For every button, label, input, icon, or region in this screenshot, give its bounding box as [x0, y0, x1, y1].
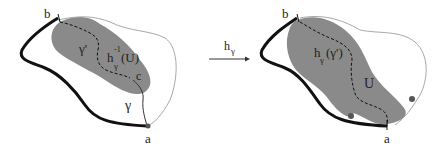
label-c: c — [136, 69, 141, 83]
arrow-label-sub: γ — [230, 46, 235, 56]
boundary-dot-lower — [348, 113, 354, 119]
point-a-dot — [146, 124, 151, 129]
diagram-canvas: b a c γ γ' h -1 γ (U) h γ b a h γ ( — [0, 0, 446, 150]
arrow-label-h: h — [224, 39, 230, 53]
label-b: b — [44, 6, 51, 21]
label-a: a — [384, 131, 390, 146]
map-arrow: h γ — [209, 39, 250, 62]
label-preimage-sub: γ — [113, 61, 118, 71]
boundary-dot-right — [409, 96, 415, 102]
label-image-arg: (γ') — [326, 45, 343, 60]
label-preimage-h: h — [107, 50, 114, 65]
label-image-sub: γ — [319, 55, 324, 65]
right-panel: b a h γ (γ') U — [261, 6, 426, 146]
label-a: a — [145, 131, 151, 146]
label-gamma: γ — [124, 98, 131, 113]
left-panel: b a c γ γ' h -1 γ (U) — [21, 6, 176, 146]
label-preimage-sup: -1 — [114, 45, 121, 54]
label-gamma-prime: γ' — [78, 41, 87, 56]
label-U: U — [364, 76, 374, 91]
label-preimage-arg: (U) — [121, 50, 139, 65]
label-b: b — [282, 6, 289, 21]
